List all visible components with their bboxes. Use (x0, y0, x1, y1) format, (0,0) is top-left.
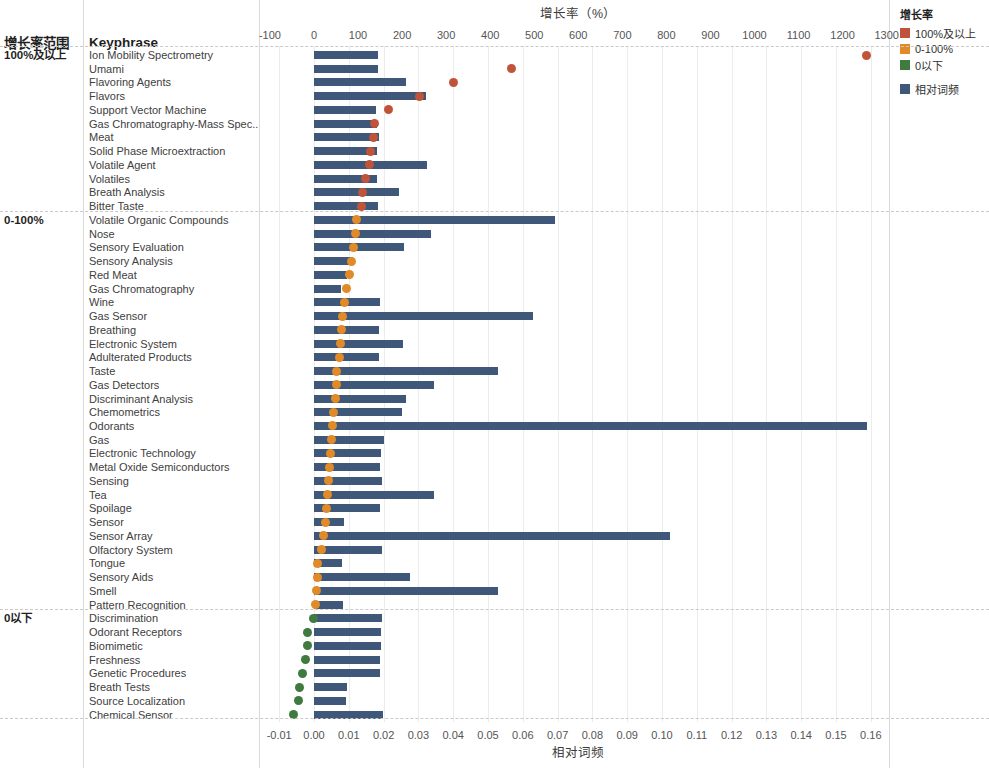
top-axis-title: 增长率（%） (540, 9, 616, 20)
legend-swatch-below-0 (900, 60, 910, 70)
frequency-bar (314, 106, 376, 114)
legend-item-0-100[interactable]: 0-100% (900, 43, 986, 55)
keyphrase-label: Discrimination (89, 613, 158, 624)
group-label-1: 0-100% (4, 215, 44, 226)
keyphrase-label: Spoilage (89, 503, 132, 514)
growth-rate-dot (311, 600, 320, 609)
growth-rate-dot (862, 51, 871, 60)
group-separator (0, 609, 989, 610)
keyphrase-label: Sensory Analysis (89, 256, 173, 267)
bottom-tick-label: 0.14 (790, 730, 811, 741)
keyphrase-label: Genetic Procedures (89, 668, 186, 679)
keyphrase-label: Metal Oxide Semiconductors (89, 462, 230, 473)
keyphrase-label: Breath Tests (89, 682, 150, 693)
growth-rate-dot (338, 312, 347, 321)
bottom-tick-label: 0.04 (442, 730, 463, 741)
frequency-bar (314, 656, 380, 664)
growth-rate-dot (349, 243, 358, 252)
frequency-bar (314, 422, 867, 430)
top-tick-label: 1100 (787, 30, 811, 41)
legend-item-100-plus[interactable]: 100%及以上 (900, 25, 986, 41)
frequency-bar (314, 202, 378, 210)
top-tick-label: 400 (481, 30, 499, 41)
keyphrase-label: Umami (89, 64, 124, 75)
keyphrase-label: Flavoring Agents (89, 77, 171, 88)
keyphrase-label: Sensor Array (89, 531, 153, 542)
group-label-0: 100%及以上 (4, 50, 66, 61)
keyphrase-label: Volatile Agent (89, 160, 156, 171)
growth-rate-dot (329, 408, 338, 417)
keyphrase-label: Gas Detectors (89, 380, 159, 391)
growth-rate-dot (366, 147, 375, 156)
bottom-tick-label: 0.06 (512, 730, 533, 741)
frequency-bar (314, 587, 498, 595)
frequency-bar (314, 216, 555, 224)
legend-item-relative-frequency[interactable]: 相对词频 (900, 81, 986, 97)
bottom-tick-label: 0.02 (373, 730, 394, 741)
bottom-tick-label: 0.00 (303, 730, 324, 741)
top-tick-label: 1200 (830, 30, 854, 41)
top-tick-label: 200 (393, 30, 411, 41)
legend-item-below-0[interactable]: 0以下 (900, 57, 986, 73)
frequency-bar (314, 532, 670, 540)
keyphrase-label: Breath Analysis (89, 187, 165, 198)
bottom-tick-label: 0.16 (860, 730, 881, 741)
growth-rate-dot (332, 367, 341, 376)
growth-rate-dot (295, 683, 304, 692)
frequency-bar (314, 353, 379, 361)
keyphrase-label: Electronic Technology (89, 448, 196, 459)
top-tick-label: 100 (349, 30, 367, 41)
keyphrase-label: Sensory Aids (89, 572, 153, 583)
keyphrase-label: Wine (89, 297, 114, 308)
frequency-bar (314, 697, 346, 705)
bottom-tick-label: 0.07 (547, 730, 568, 741)
plot-right-border (889, 0, 890, 768)
keyphrase-label: Freshness (89, 655, 140, 666)
frequency-bar (314, 463, 380, 471)
frequency-bar (314, 436, 384, 444)
top-tick-label: 0 (311, 30, 317, 41)
keyphrase-label: Flavors (89, 91, 125, 102)
legend-swatch-100-plus (900, 28, 910, 38)
legend-swatch-relative-frequency (900, 84, 910, 94)
frequency-bar (314, 628, 381, 636)
bottom-tick-label: 0.13 (756, 730, 777, 741)
top-tick-label: 800 (657, 30, 675, 41)
keyphrase-label: Solid Phase Microextraction (89, 146, 225, 157)
keyphrase-label: Breathing (89, 325, 136, 336)
plot-bottom-rule (0, 718, 989, 719)
bottom-tick-label: 0.08 (582, 730, 603, 741)
bottom-axis-title: 相对词频 (552, 748, 604, 759)
legend-label-100-plus: 100%及以上 (915, 25, 976, 41)
frequency-bar (314, 326, 379, 334)
frequency-bar (314, 271, 347, 279)
growth-rate-dot (345, 270, 354, 279)
frequency-bar (314, 449, 381, 457)
bottom-tick-label: -0.01 (267, 730, 292, 741)
keyphrase-label: Gas Chromatography (89, 284, 194, 295)
growth-rate-dot (365, 160, 374, 169)
keyphrase-label: Red Meat (89, 270, 137, 281)
growth-rate-dot (507, 64, 516, 73)
frequency-bar (314, 285, 341, 293)
group-label-2: 0以下 (4, 613, 32, 624)
frequency-bar (314, 243, 404, 251)
keyphrase-label: Odorants (89, 421, 134, 432)
frequency-bar (314, 51, 378, 59)
growth-rate-dot (357, 202, 366, 211)
bottom-tick-label: 0.05 (477, 730, 498, 741)
keyphrase-label: Volatile Organic Compounds (89, 215, 228, 226)
keyphrase-label: Meat (89, 132, 113, 143)
frequency-bar (314, 120, 377, 128)
top-tick-label: 1000 (742, 30, 766, 41)
growth-rate-dot (301, 655, 310, 664)
growth-rate-dot (336, 339, 345, 348)
growth-rate-dot (384, 105, 393, 114)
top-tick-label: 500 (525, 30, 543, 41)
frequency-bar (314, 642, 381, 650)
group-separator (0, 211, 989, 212)
frequency-bar (314, 614, 382, 622)
keyphrase-label: Biomimetic (89, 641, 143, 652)
bottom-tick-label: 0.10 (651, 730, 672, 741)
column-separator-left (83, 0, 84, 768)
